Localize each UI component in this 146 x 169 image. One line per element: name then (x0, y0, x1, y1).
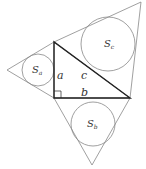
label-circle-sc: Sc (104, 38, 115, 50)
label-side-b: b (81, 86, 88, 99)
label-side-c: c (81, 69, 87, 82)
outer-triangle-c (54, 2, 141, 98)
right-triangle (54, 42, 130, 98)
right-angle-mark (54, 91, 61, 98)
outer-triangle-b (54, 98, 130, 165)
triangle-circles-diagram: a c b Sa Sc Sb (0, 0, 146, 169)
outer-triangle-a (7, 42, 54, 98)
label-circle-sa: Sa (32, 64, 43, 76)
label-circle-sb: Sb (87, 118, 98, 130)
label-side-a: a (57, 69, 64, 82)
